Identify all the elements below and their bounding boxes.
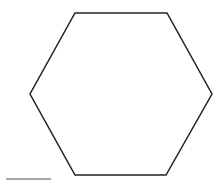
hexagon-shape	[30, 13, 212, 175]
diagram-canvas	[0, 0, 218, 193]
